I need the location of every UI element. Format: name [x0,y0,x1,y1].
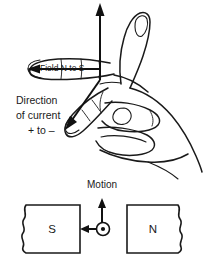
hand-lower-outline [114,75,148,92]
south-pole-label: S [48,223,56,235]
current-label-line-3: + to – [28,124,55,136]
thumb-web-crease [100,82,121,84]
knuckle-shadow [150,111,153,126]
middle-finger-crease-2 [82,110,90,121]
flemings-right-hand-rule-figure: Field N to S Direction of current + to –… [0,0,205,269]
curled-finger-lower-crease [101,136,146,142]
field-arrow-lower-icon [80,225,96,233]
current-label-line-2: of current [16,109,60,121]
current-arrow-icon [65,80,100,130]
hand-back-outline [130,88,202,172]
wrist-contour [148,162,178,179]
circled-dot-icon [97,223,110,236]
field-label: Field N to S [40,63,85,73]
fist-base-outline [100,150,188,162]
north-pole-label: N [149,223,157,235]
middle-finger-crease-1 [92,100,100,111]
current-label-line-1: Direction [16,94,58,106]
thumbnail-outline [135,16,148,37]
motion-label: Motion [87,179,117,190]
palm-crease [100,92,103,113]
curled-finger-upper-nail [113,108,131,124]
figure-canvas: Field N to S Direction of current + to –… [0,0,205,269]
